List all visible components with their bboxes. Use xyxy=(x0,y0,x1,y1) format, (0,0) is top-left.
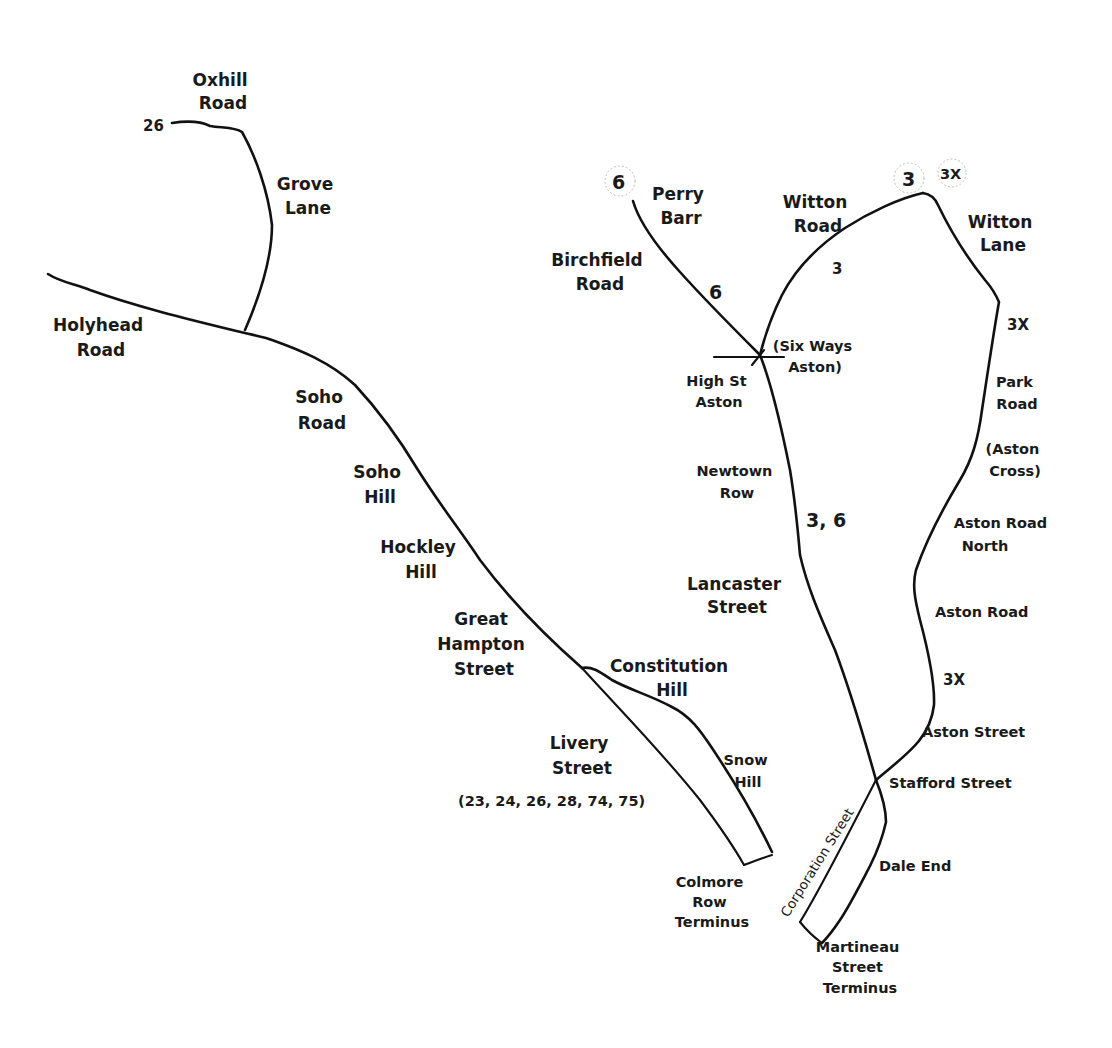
route-3x-witton-lane-line xyxy=(876,193,999,780)
label-witton-lane: Witton Lane xyxy=(968,212,1039,255)
label-stafford-street: Stafford Street xyxy=(889,775,1012,791)
route-3x-marker-park-road: 3X xyxy=(1007,316,1029,334)
label-aston-road-north: Aston Road North xyxy=(954,515,1052,554)
label-martineau-street-terminus: Martineau Street Terminus xyxy=(816,939,905,996)
label-park-road: Park Road xyxy=(996,374,1038,412)
label-corporation-street: Corporation Street xyxy=(777,805,857,920)
route-3x-badge: 3X xyxy=(938,159,966,187)
label-colmore-row-terminus: Colmore Row Terminus xyxy=(675,874,749,930)
route-26-badge-text: 26 xyxy=(143,117,164,135)
route-26-badge: 26 xyxy=(143,117,164,135)
label-livery-street: Livery Street xyxy=(550,733,615,778)
label-newtown-row: Newtown Row xyxy=(696,463,777,501)
label-soho-hill: Soho Hill xyxy=(353,462,407,507)
label-constitution-hill: Constitution Hill xyxy=(610,656,734,700)
route-3-6-newtown-row-line xyxy=(760,355,876,780)
route-6-marker: 6 xyxy=(709,281,722,303)
label-lancaster-street: Lancaster Street xyxy=(687,574,787,617)
label-great-hampton-street: Great Hampton Street xyxy=(437,609,530,679)
label-aston-cross: (Aston Cross) xyxy=(986,441,1045,479)
colmore-row-terminus-line xyxy=(744,855,772,865)
label-grove-lane: Grove Lane xyxy=(277,174,340,218)
route-3-6-marker: 3, 6 xyxy=(806,509,846,531)
corporation-street-line xyxy=(800,780,876,922)
route-26-grove-lane-line xyxy=(172,122,272,330)
label-aston-road: Aston Road xyxy=(935,604,1028,620)
route-6-badge: 6 xyxy=(605,166,635,196)
label-high-st-aston: High St Aston xyxy=(686,373,751,410)
route-3-marker: 3 xyxy=(832,260,842,278)
route-6-badge-text: 6 xyxy=(612,171,625,193)
label-dale-end: Dale End xyxy=(879,858,951,874)
label-holyhead-road: Holyhead Road xyxy=(53,315,149,360)
tram-route-map: 26 6 3 3X 6 3 3X 3, 6 3X Oxhill Road Gro… xyxy=(0,0,1112,1048)
label-snow-hill: Snow Hill xyxy=(723,752,772,790)
label-hockley-hill: Hockley Hill xyxy=(380,537,462,582)
label-aston-street: Aston Street xyxy=(922,724,1025,740)
label-birchfield-road: Birchfield Road xyxy=(551,250,648,294)
label-oxhill-road: Oxhill Road xyxy=(193,70,254,113)
label-soho-road: Soho Road xyxy=(295,387,349,433)
label-livery-street-routes: (23, 24, 26, 28, 74, 75) xyxy=(458,793,645,809)
route-3-badge-text: 3 xyxy=(902,168,915,190)
label-perry-barr: Perry Barr xyxy=(652,184,710,228)
route-3-badge: 3 xyxy=(894,163,924,193)
route-3x-marker-aston-road: 3X xyxy=(943,671,965,689)
route-3x-badge-text: 3X xyxy=(940,166,961,182)
label-six-ways-aston: (Six Ways Aston) xyxy=(773,338,857,375)
dale-end-line xyxy=(822,780,886,943)
